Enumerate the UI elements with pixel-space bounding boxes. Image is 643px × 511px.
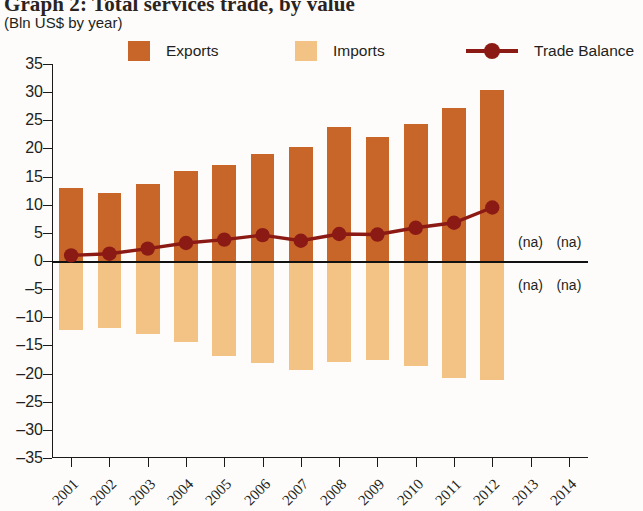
y-tick-label: 0 [34,252,43,270]
y-tick-mark [43,233,52,234]
x-tick-mark [224,458,225,467]
bar-exports [327,127,351,261]
bar-exports [98,193,122,261]
bar-exports [289,147,313,261]
x-tick-label: 2007 [279,476,312,509]
bar-imports [442,261,466,378]
bar-exports [366,137,390,261]
y-tick-mark [43,64,52,65]
bar-exports [136,184,160,261]
legend-label: Trade Balance [534,42,634,60]
bar-exports [404,124,428,261]
bar-exports [212,165,236,261]
bar-imports [136,261,160,334]
bar-exports [59,188,83,261]
legend-item-trade-balance[interactable]: Trade Balance [466,38,634,64]
x-tick-label: 2009 [355,476,388,509]
legend-line-dot-icon [466,41,518,61]
x-tick-mark [569,458,570,467]
y-tick-mark [43,430,52,431]
y-tick-label: –10 [16,308,43,326]
legend-item-exports[interactable]: Exports [128,38,219,64]
x-tick-mark [454,458,455,467]
bar-imports [98,261,122,328]
y-tick-mark [43,92,52,93]
bar-exports [251,154,275,261]
y-tick-label: –15 [16,336,43,354]
x-tick-mark [416,458,417,467]
y-tick-mark [43,289,52,290]
x-axis [52,457,588,458]
y-tick-label: –5 [25,280,43,298]
na-label: (na) [518,234,543,250]
y-tick-label: 15 [25,168,43,186]
bar-exports [174,171,198,261]
y-tick-mark [43,317,52,318]
trade-balance-polyline [71,208,492,256]
y-tick-mark [43,374,52,375]
y-tick-mark [43,261,52,262]
bar-imports [327,261,351,362]
y-tick-mark [43,120,52,121]
y-tick-mark [43,177,52,178]
x-tick-mark [492,458,493,467]
y-tick-label: 35 [25,55,43,73]
legend-swatch-icon [128,41,150,61]
y-tick-label: 25 [25,111,43,129]
y-tick-mark [43,345,52,346]
bar-exports [442,108,466,261]
plot-area: 35302520151050–5–10–15–20–25–30–35200120… [52,64,588,458]
x-tick-label: 2004 [164,476,197,509]
legend-item-imports[interactable]: Imports [295,38,385,64]
x-tick-label: 2008 [317,476,350,509]
bar-imports [480,261,504,380]
na-label: (na) [556,234,581,250]
x-tick-mark [71,458,72,467]
bar-imports [251,261,275,363]
x-tick-mark [339,458,340,467]
na-label: (na) [518,277,543,293]
x-tick-label: 2012 [470,476,503,509]
x-tick-label: 2006 [241,476,274,509]
bar-imports [174,261,198,342]
x-tick-label: 2001 [49,476,82,509]
y-tick-label: 5 [34,224,43,242]
bar-exports [480,90,504,261]
y-tick-label: –30 [16,421,43,439]
y-tick-mark [43,402,52,403]
x-tick-mark [531,458,532,467]
bar-imports [59,261,83,330]
chart-legend: ExportsImportsTrade Balance [128,38,640,64]
y-tick-label: –25 [16,393,43,411]
x-tick-label: 2013 [509,476,542,509]
x-tick-mark [186,458,187,467]
x-tick-mark [301,458,302,467]
x-tick-mark [148,458,149,467]
x-tick-mark [263,458,264,467]
bar-imports [212,261,236,356]
bar-imports [289,261,313,370]
x-tick-label: 2014 [547,476,580,509]
x-tick-label: 2003 [126,476,159,509]
na-label: (na) [556,277,581,293]
legend-label: Imports [333,42,385,60]
y-tick-label: 10 [25,196,43,214]
zero-line [52,261,588,263]
legend-label: Exports [166,42,219,60]
y-tick-label: –35 [16,449,43,467]
y-tick-label: 20 [25,139,43,157]
bar-imports [366,261,390,360]
y-tick-label: 30 [25,83,43,101]
chart-subtitle: (Bln US$ by year) [4,14,122,31]
y-tick-mark [43,458,52,459]
y-tick-mark [43,205,52,206]
x-tick-mark [377,458,378,467]
x-tick-label: 2011 [432,476,465,509]
y-tick-label: –20 [16,365,43,383]
y-tick-mark [43,148,52,149]
bar-imports [404,261,428,366]
x-tick-label: 2002 [87,476,120,509]
legend-swatch-icon [295,41,317,61]
x-tick-mark [109,458,110,467]
x-tick-label: 2005 [202,476,235,509]
